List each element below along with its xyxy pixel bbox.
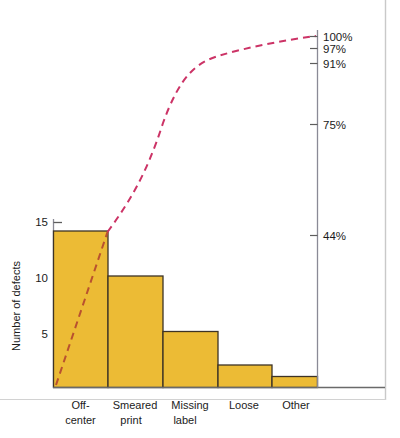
y2-tick-label-91: 91% xyxy=(323,58,346,70)
x-label-loose: Loose xyxy=(229,399,259,411)
x-label-smeared-print-line2: print xyxy=(120,414,141,426)
right-percent-axis xyxy=(310,30,318,388)
x-label-other: Other xyxy=(282,399,310,411)
y2-tick-label-75: 75% xyxy=(323,119,346,131)
bar-loose[interactable] xyxy=(218,365,272,388)
y2-tick-label-97: 97% xyxy=(323,43,346,55)
bar-missing-label[interactable] xyxy=(163,332,218,388)
bars-group xyxy=(54,231,318,388)
y-tick-label-10: 10 xyxy=(35,272,48,284)
x-label-missing-label-line2: label xyxy=(173,414,196,426)
x-label-smeared-print-line1: Smeared xyxy=(113,399,158,411)
bar-other[interactable] xyxy=(272,377,318,388)
pareto-chart-figure: 15 10 5 Number of defects xyxy=(0,0,400,438)
curve-segment-main xyxy=(108,36,317,232)
y-tick-label-15: 15 xyxy=(35,216,48,228)
y-axis-title: Number of defects xyxy=(10,261,22,351)
bar-smeared-print[interactable] xyxy=(108,276,163,388)
y2-tick-label-44: 44% xyxy=(323,230,346,242)
chart-canvas: 15 10 5 Number of defects xyxy=(0,0,400,438)
y-tick-label-5: 5 xyxy=(42,328,48,340)
x-label-missing-label-line1: Missing xyxy=(171,399,208,411)
x-label-off-center-line1: Off- xyxy=(71,399,89,411)
category-labels: Off- center Smeared print Missing label … xyxy=(65,399,310,426)
y2-tick-label-100: 100% xyxy=(323,31,352,43)
x-label-off-center-line2: center xyxy=(65,414,96,426)
